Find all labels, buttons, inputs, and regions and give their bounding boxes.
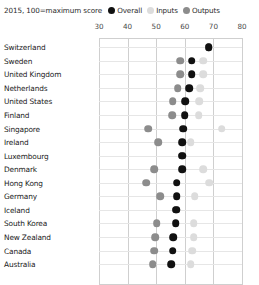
data-point-inputs[interactable] <box>200 165 208 173</box>
chart-row[interactable]: New Zealand <box>0 230 259 244</box>
data-point-outputs[interactable] <box>151 233 159 241</box>
plot-frame-top <box>99 38 242 39</box>
data-point-overall[interactable] <box>179 125 187 133</box>
chart-row[interactable]: United States <box>0 95 259 109</box>
plot-area: SwitzerlandSwedenUnited KingdomNetherlan… <box>0 38 259 285</box>
row-label-denmark: Denmark <box>4 165 37 174</box>
data-point-outputs[interactable] <box>174 84 182 92</box>
data-point-outputs[interactable] <box>150 247 158 255</box>
row-rule <box>99 156 242 157</box>
chart-row[interactable]: Australia <box>0 257 259 271</box>
legend-item-inputs[interactable]: Inputs <box>147 6 178 15</box>
chart-row[interactable]: Switzerland <box>0 41 259 55</box>
chart-row[interactable]: Iceland <box>0 203 259 217</box>
data-point-outputs[interactable] <box>169 98 177 106</box>
x-axis-tick-80: 80 <box>237 22 246 31</box>
row-rule <box>99 142 242 143</box>
data-point-inputs[interactable] <box>187 138 195 146</box>
data-point-inputs[interactable] <box>200 71 208 79</box>
data-point-inputs[interactable] <box>196 98 204 106</box>
data-point-overall[interactable] <box>181 111 189 119</box>
row-label-new-zealand: New Zealand <box>4 232 51 241</box>
data-point-overall[interactable] <box>186 84 194 92</box>
chart-row[interactable]: Germany <box>0 190 259 204</box>
data-point-overall[interactable] <box>188 57 196 65</box>
row-label-germany: Germany <box>4 192 37 201</box>
row-label-united-kingdom: United Kingdom <box>4 70 61 79</box>
x-axis-tick-50: 50 <box>152 22 161 31</box>
chart-row[interactable]: Netherlands <box>0 81 259 95</box>
data-point-outputs[interactable] <box>156 193 164 201</box>
chart-row[interactable]: Ireland <box>0 135 259 149</box>
data-point-overall[interactable] <box>172 206 180 214</box>
row-label-sweden: Sweden <box>4 56 32 65</box>
chart-row[interactable]: South Korea <box>0 217 259 231</box>
data-point-inputs[interactable] <box>190 233 198 241</box>
x-axis-tick-30: 30 <box>94 22 103 31</box>
data-point-outputs[interactable] <box>144 125 152 133</box>
legend-item-overall[interactable]: Overall <box>108 6 142 15</box>
data-point-inputs[interactable] <box>195 111 203 119</box>
data-point-inputs[interactable] <box>188 247 196 255</box>
data-point-overall[interactable] <box>173 179 181 187</box>
data-point-inputs[interactable] <box>200 57 208 65</box>
row-label-hong-kong: Hong Kong <box>4 178 43 187</box>
data-point-overall[interactable] <box>167 260 175 268</box>
row-label-luxembourg: Luxembourg <box>4 151 49 160</box>
chart-row[interactable]: United Kingdom <box>0 68 259 82</box>
x-axis-tick-70: 70 <box>209 22 218 31</box>
data-point-overall[interactable] <box>169 233 177 241</box>
data-point-outputs[interactable] <box>168 111 176 119</box>
data-point-inputs[interactable] <box>218 125 226 133</box>
chart-header: 2015, 100=maximum score OverallInputsOut… <box>0 0 259 20</box>
data-point-overall[interactable] <box>205 44 213 52</box>
chart-row[interactable]: Canada <box>0 244 259 258</box>
row-label-ireland: Ireland <box>4 138 29 147</box>
row-rule <box>99 88 242 89</box>
chart-row[interactable]: Singapore <box>0 122 259 136</box>
row-label-canada: Canada <box>4 246 31 255</box>
chart-subtitle: 2015, 100=maximum score <box>4 6 102 15</box>
legend-swatch-outputs-icon <box>183 7 190 14</box>
chart-container: 2015, 100=maximum score OverallInputsOut… <box>0 0 259 285</box>
chart-row[interactable]: Finland <box>0 108 259 122</box>
legend-item-outputs[interactable]: Outputs <box>183 6 220 15</box>
row-label-australia: Australia <box>4 260 35 269</box>
data-point-inputs[interactable] <box>190 220 198 228</box>
x-axis-tick-labels: 304050607080 <box>0 20 259 38</box>
data-point-outputs[interactable] <box>176 57 184 65</box>
data-point-outputs[interactable] <box>153 220 161 228</box>
data-point-overall[interactable] <box>181 98 189 106</box>
row-label-united-states: United States <box>4 97 52 106</box>
x-axis-tick-60: 60 <box>180 22 189 31</box>
data-point-inputs[interactable] <box>187 260 195 268</box>
row-label-finland: Finland <box>4 111 29 120</box>
chart-row[interactable]: Sweden <box>0 54 259 68</box>
data-point-overall[interactable] <box>178 165 186 173</box>
row-rule <box>99 210 242 211</box>
data-point-overall[interactable] <box>188 71 196 79</box>
legend-swatch-overall-icon <box>108 7 115 14</box>
data-point-overall[interactable] <box>169 247 177 255</box>
row-rule <box>99 223 242 224</box>
row-rule <box>99 196 242 197</box>
chart-row[interactable]: Luxembourg <box>0 149 259 163</box>
data-point-overall[interactable] <box>173 193 181 201</box>
data-point-outputs[interactable] <box>149 260 157 268</box>
data-point-inputs[interactable] <box>206 179 214 187</box>
chart-row[interactable]: Denmark <box>0 162 259 176</box>
legend-label: Overall <box>117 6 142 15</box>
data-point-outputs[interactable] <box>150 165 158 173</box>
data-point-inputs[interactable] <box>196 84 204 92</box>
row-label-switzerland: Switzerland <box>4 43 45 52</box>
data-point-inputs[interactable] <box>191 193 199 201</box>
chart-row[interactable]: Hong Kong <box>0 176 259 190</box>
data-point-overall[interactable] <box>172 220 180 228</box>
row-rule <box>99 183 242 184</box>
data-point-outputs[interactable] <box>155 138 163 146</box>
data-point-outputs[interactable] <box>176 71 184 79</box>
data-point-outputs[interactable] <box>142 179 150 187</box>
data-point-overall[interactable] <box>178 138 186 146</box>
data-point-overall[interactable] <box>178 152 186 160</box>
row-label-singapore: Singapore <box>4 124 40 133</box>
